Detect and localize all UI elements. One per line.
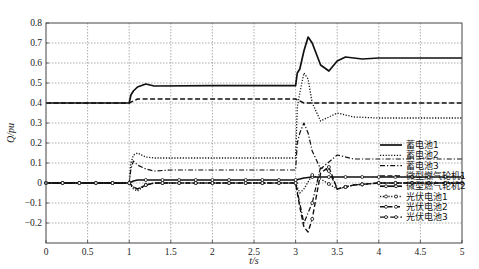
x-tick-label: 1 [127,247,132,257]
x-tick-label: 2 [210,247,215,257]
legend: 蓄电池1蓄电池2蓄电池3微型燃气轮机1微型燃气轮机2光伏电池1光伏电池2光伏电池… [380,139,466,222]
y-tick-label: 0.5 [30,78,42,88]
x-tick-label: 0 [44,247,49,257]
x-tick-label: 0.5 [82,247,94,257]
y-tick-label: 0.4 [30,98,42,108]
legend-item-label: 光伏电池3 [406,211,448,222]
y-tick-label: 0.1 [30,158,42,168]
x-tick-label: 5 [460,247,465,257]
y-axis-ticks: 0.80.70.60.50.40.30.20.10−0.1−0.2 [25,18,49,228]
x-tick-label: 4.5 [414,247,426,257]
x-tick-label: 1.5 [165,247,177,257]
line-chart: 00.511.522.533.544.55 0.80.70.60.50.40.3… [0,0,479,269]
y-tick-label: 0.6 [30,58,42,68]
legend-item-label: 光伏电池1 [406,191,448,202]
legend-item-label: 微型燃气轮机1 [406,170,466,181]
legend-item-label: 光伏电池2 [406,201,448,212]
x-axis-label: t/s [249,255,259,266]
legend-item-label: 蓄电池2 [406,149,439,160]
y-tick-label: −0.2 [25,218,42,228]
y-tick-label: 0.2 [30,138,42,148]
y-axis-label: Q/pu [5,123,16,143]
y-tick-label: 0.3 [30,118,42,128]
legend-item-label: 蓄电池1 [406,139,439,150]
x-tick-label: 3.5 [331,247,343,257]
legend-item-label: 蓄电池3 [406,160,439,171]
grid-lines [46,23,462,243]
y-tick-label: 0.7 [30,38,42,48]
y-tick-label: −0.1 [25,198,42,208]
y-tick-label: 0.8 [30,18,42,28]
x-tick-label: 4 [376,247,381,257]
legend-item-label: 微型燃气轮机2 [406,180,466,191]
y-tick-label: 0 [37,178,42,188]
x-tick-label: 3 [293,247,298,257]
